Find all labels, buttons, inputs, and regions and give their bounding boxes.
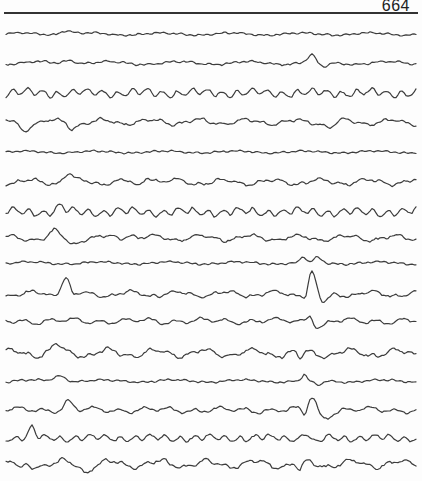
eeg-trace-channel-14 — [6, 398, 416, 419]
eeg-trace-channel-4 — [6, 117, 416, 131]
eeg-trace-channel-5 — [6, 150, 416, 154]
eeg-trace-channel-7 — [6, 204, 416, 217]
eeg-trace-channel-8 — [6, 228, 416, 244]
eeg-trace-channel-1 — [6, 31, 416, 36]
eeg-trace-channel-3 — [6, 88, 416, 99]
eeg-trace-channel-16 — [6, 458, 416, 473]
eeg-traces — [0, 0, 422, 481]
eeg-trace-channel-10 — [6, 271, 416, 303]
eeg-trace-channel-13 — [6, 374, 416, 385]
eeg-chart-page: 664 — [0, 0, 422, 481]
eeg-trace-channel-11 — [6, 316, 416, 328]
eeg-trace-channel-6 — [6, 174, 416, 187]
eeg-trace-channel-2 — [6, 54, 416, 67]
eeg-trace-channel-9 — [6, 257, 416, 266]
eeg-trace-channel-15 — [6, 425, 416, 442]
eeg-trace-channel-12 — [6, 344, 416, 360]
